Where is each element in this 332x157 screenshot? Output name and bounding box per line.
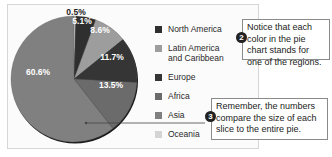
legend-swatch [155,45,162,52]
legend-label: Oceania [168,129,200,139]
callout-box-2: Notice that each color in the pie chart … [242,19,330,60]
legend-label: North America [168,24,222,34]
callout-3-text: Remember, the numbers compare the size o… [216,101,317,134]
callout-2-text: Notice that each color in the pie chart … [247,22,322,67]
leader-dot [85,122,87,124]
legend-label: Latin America and Caribbean [168,43,224,63]
callout-number-badge-3: 3 [205,111,216,122]
slice-value-label: 60.6% [26,67,51,77]
slice-value-label: 5.1% [72,16,92,26]
legend-label: Europe [168,72,195,82]
legend-swatch [155,112,162,119]
legend-item-north-america: North America [155,24,224,34]
legend-label: Africa [168,91,190,101]
legend-label: Asia [168,110,185,120]
legend-label-line1: Latin America [168,43,220,53]
legend-swatch [155,93,162,100]
legend-swatch [155,131,162,138]
slice-value-label: 13.5% [99,80,124,90]
legend-label-line2: and Caribbean [168,53,224,63]
legend-item-europe: Europe [155,72,224,82]
slice-value-label: 8.6% [90,25,110,35]
callout-box-3: Remember, the numbers compare the size o… [211,98,328,140]
legend-item-latin-america: Latin America and Caribbean [155,43,224,63]
legend-swatch [155,74,162,81]
callout-number-badge-2: 2 [236,32,247,43]
legend-swatch [155,26,162,33]
slice-value-label: 11.7% [100,52,124,62]
